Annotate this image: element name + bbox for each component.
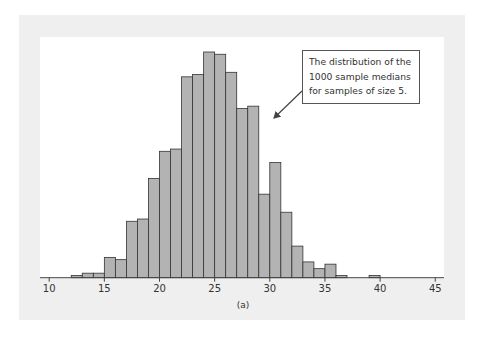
histogram-bar [182, 77, 193, 278]
histogram-bar [303, 262, 314, 278]
histogram-bar [126, 221, 137, 277]
annotation-box: The distribution of the 1000 sample medi… [302, 50, 420, 104]
x-tick-label: 40 [374, 283, 387, 294]
histogram-bar [292, 246, 303, 278]
histogram-bar [215, 54, 226, 277]
histogram-bar [148, 178, 159, 277]
x-tick-label: 20 [153, 283, 166, 294]
figure-caption: (a) [237, 300, 250, 310]
histogram-bar [82, 273, 93, 278]
annotation-arrow-icon [274, 91, 302, 118]
annotation-line-2: 1000 sample medians [309, 70, 413, 85]
histogram-bar [226, 72, 237, 277]
x-tick-label: 30 [263, 283, 276, 294]
histogram-bar [325, 264, 336, 278]
histogram-bar [248, 106, 259, 278]
histogram-bar [281, 212, 292, 277]
x-tick-label: 35 [319, 283, 332, 294]
histogram-bar [160, 151, 171, 277]
histogram-bar [93, 273, 104, 278]
histogram-bar [314, 269, 325, 278]
x-tick-label: 45 [429, 283, 442, 294]
histogram-bar [193, 75, 204, 278]
x-tick-label: 15 [98, 283, 111, 294]
histogram-bar [204, 52, 215, 278]
histogram-bar [270, 163, 281, 278]
histogram-bar [137, 219, 148, 278]
annotation-line-1: The distribution of the [309, 55, 413, 70]
histogram-bar [237, 108, 248, 277]
x-tick-label: 10 [43, 283, 56, 294]
x-tick-label: 25 [208, 283, 221, 294]
histogram-bar [115, 260, 126, 278]
histogram-bar [171, 149, 182, 278]
histogram-bar [259, 194, 270, 278]
annotation-line-3: for samples of size 5. [309, 84, 413, 99]
histogram-bar [104, 257, 115, 277]
